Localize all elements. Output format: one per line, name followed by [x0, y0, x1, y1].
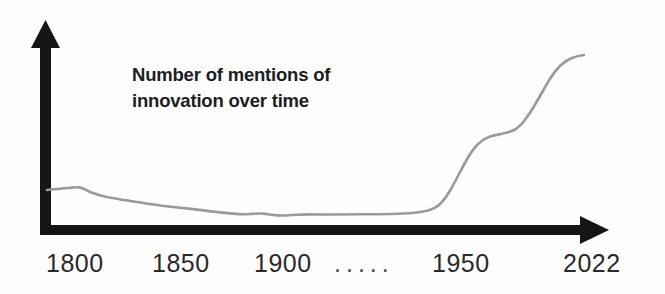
- x-axis-tick-label-1800: 1800: [46, 249, 104, 278]
- chart-title: Number of mentions of innovation over ti…: [132, 62, 392, 115]
- y-axis-line: [40, 40, 51, 234]
- x-axis-tick-label-ellipsis: .....: [334, 249, 394, 278]
- y-axis-arrowhead: [31, 20, 60, 48]
- x-axis-tick-label-1950: 1950: [432, 249, 490, 278]
- x-axis-line: [40, 225, 588, 235]
- x-axis-tick-label-2022: 2022: [563, 249, 621, 278]
- x-axis-tick-label-1900: 1900: [254, 249, 312, 278]
- x-axis-arrowhead: [580, 216, 609, 244]
- x-axis-tick-label-1850: 1850: [152, 249, 210, 278]
- chart-screenshot: Number of mentions of innovation over ti…: [0, 0, 665, 294]
